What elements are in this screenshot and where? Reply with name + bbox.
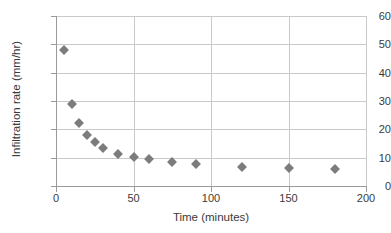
x-tick-label-100: 100: [191, 193, 231, 204]
x-tick-label-200: 200: [346, 193, 386, 204]
gridline-x-100: [211, 16, 212, 186]
x-tick-label-0: 0: [36, 193, 76, 204]
plot-area: [56, 16, 366, 186]
y-tick-label-30: 30: [345, 96, 391, 107]
y-tick-label-20: 20: [345, 124, 391, 135]
gridline-x-150: [289, 16, 290, 186]
scatter-chart: 0102030405060 050100150200 Time (minutes…: [0, 0, 391, 233]
y-tick-label-10: 10: [345, 152, 391, 163]
tick-y-30: [51, 101, 56, 102]
tick-y-20: [51, 129, 56, 130]
y-axis-line: [56, 16, 57, 187]
tick-y-60: [51, 16, 56, 17]
y-axis-title: Infiltration rate (mm/hr): [10, 9, 22, 189]
x-axis-title: Time (minutes): [56, 211, 366, 223]
x-tick-label-150: 150: [269, 193, 309, 204]
tick-y-10: [51, 158, 56, 159]
y-tick-label-60: 60: [345, 11, 391, 22]
y-tick-label-0: 0: [345, 181, 391, 192]
tick-y-50: [51, 44, 56, 45]
y-tick-label-40: 40: [345, 67, 391, 78]
tick-y-40: [51, 73, 56, 74]
y-tick-label-50: 50: [345, 39, 391, 50]
x-tick-label-50: 50: [114, 193, 154, 204]
